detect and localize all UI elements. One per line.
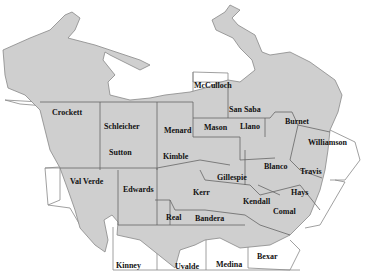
- county-label-val-verde: Val Verde: [70, 178, 103, 186]
- county-label-uvalde: Uvalde: [175, 263, 199, 271]
- county-label-llano: Llano: [240, 123, 260, 131]
- county-label-burnet: Burnet: [285, 118, 309, 126]
- county-label-schleicher: Schleicher: [104, 123, 140, 131]
- county-label-real: Real: [166, 214, 182, 222]
- county-label-kinney: Kinney: [116, 262, 141, 270]
- county-label-san-saba: San Saba: [229, 106, 261, 114]
- county-label-edwards: Edwards: [123, 186, 154, 194]
- county-label-sutton: Sutton: [109, 149, 132, 157]
- county-label-williamson: Williamson: [308, 139, 347, 147]
- county-label-menard: Menard: [164, 127, 192, 135]
- county-label-gillespie: Gillespie: [217, 174, 247, 182]
- county-label-kimble: Kimble: [163, 153, 188, 161]
- county-label-medina: Medina: [216, 261, 242, 269]
- county-label-hays: Hays: [291, 189, 308, 197]
- county-label-kerr: Kerr: [193, 189, 210, 197]
- county-label-travis: Travis: [300, 168, 322, 176]
- county-label-blanco: Blanco: [264, 163, 288, 171]
- hill-country-map: [0, 0, 365, 272]
- county-label-kendall: Kendall: [243, 198, 270, 206]
- county-label-bexar: Bexar: [257, 253, 277, 261]
- county-label-mcculloch: McCulloch: [194, 82, 232, 90]
- county-label-bandera: Bandera: [195, 215, 224, 223]
- shaded-region: [3, 5, 342, 268]
- county-label-mason: Mason: [204, 124, 227, 132]
- county-label-comal: Comal: [273, 208, 296, 216]
- county-label-crockett: Crockett: [52, 109, 82, 117]
